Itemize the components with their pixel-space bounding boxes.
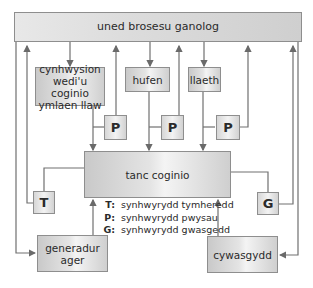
pressure-sensor-3: P: [216, 115, 240, 140]
legend-row: P: synhwyrydd pwysau: [100, 212, 234, 225]
temperature-sensor: T: [33, 191, 55, 214]
pressure-sensor-1-label: P: [111, 122, 121, 134]
legend-value: synhwyrydd pwysau: [121, 212, 218, 225]
precooked-ingredients-box: cynhwysion wedi'u coginio ymlaen llaw: [35, 67, 105, 106]
cooking-tank-label: tanc coginio: [125, 169, 189, 181]
pressure-sensor-2-label: P: [168, 122, 178, 134]
pressure-sensor-1: P: [104, 115, 127, 140]
legend-value: synhwyrydd gwasgedd: [121, 224, 230, 237]
cooking-tank-box: tanc coginio: [84, 151, 231, 198]
milk-label: llaeth: [190, 74, 220, 86]
central-processing-unit-label: uned brosesu ganolog: [97, 21, 219, 33]
legend-key: P:: [100, 212, 121, 225]
legend-row: T: synhwyrydd tymheredd: [100, 199, 234, 212]
legend-row: G: synhwyrydd gwasgedd: [100, 224, 234, 237]
pressure-sensor-3-label: P: [223, 122, 233, 134]
central-processing-unit: uned brosesu ganolog: [14, 12, 302, 42]
pressure-sensor-2: P: [161, 115, 184, 140]
cream-box: hufen: [125, 67, 170, 92]
compression-sensor: G: [257, 192, 279, 215]
legend: T: synhwyrydd tymheredd P: synhwyrydd pw…: [100, 199, 234, 237]
compression-sensor-label: G: [263, 198, 274, 210]
legend-value: synhwyrydd tymheredd: [121, 199, 234, 212]
legend-key: T:: [100, 199, 121, 212]
steam-generator-label: generadur ager: [38, 242, 107, 266]
compressor-box: cywasgydd: [207, 236, 278, 273]
precooked-ingredients-label: cynhwysion wedi'u coginio ymlaen llaw: [36, 63, 104, 111]
compressor-label: cywasgydd: [213, 249, 272, 261]
milk-box: llaeth: [188, 67, 221, 92]
cream-label: hufen: [132, 74, 162, 86]
temperature-sensor-label: T: [40, 197, 49, 209]
steam-generator-box: generadur ager: [37, 235, 108, 272]
